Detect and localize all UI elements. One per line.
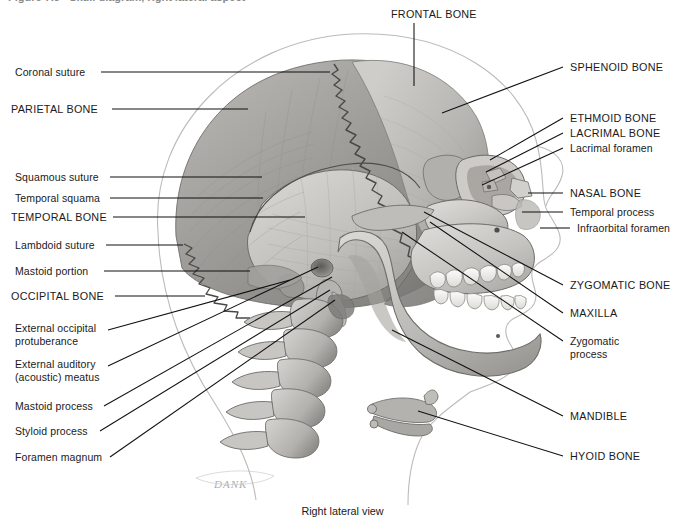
label-parietal-bone: PARIETAL BONE: [11, 103, 98, 116]
label-foramen-magnum: Foramen magnum: [15, 451, 102, 464]
mental-foramen-shape: [496, 334, 500, 338]
label-infraorbital-foramen: Infraorbital foramen: [577, 222, 670, 235]
label-lacrimal-bone: LACRIMAL BONE: [570, 127, 660, 140]
label-mastoid-portion: Mastoid portion: [15, 265, 88, 278]
label-styloid-process: Styloid process: [15, 425, 88, 438]
hyoid-bone-shape: [368, 390, 439, 436]
label-temporal-squama: Temporal squama: [15, 192, 100, 205]
label-frontal-bone: FRONTAL BONE: [391, 8, 477, 21]
lacrimal-foramen-shape: [487, 185, 491, 189]
label-zygomatic-bone: ZYGOMATIC BONE: [570, 279, 670, 292]
leader-line-hyoid-bone: [418, 411, 563, 456]
label-lacrimal-foramen: Lacrimal foramen: [570, 142, 653, 155]
figure-caption: Right lateral view: [0, 505, 685, 517]
label-sphenoid-bone: SPHENOID BONE: [570, 61, 663, 74]
infraorbital-foramen-shape: [494, 227, 499, 232]
label-zygomatic-process: Zygomatic process: [570, 335, 619, 361]
cervical-vertebrae: [220, 295, 354, 458]
label-maxilla: MAXILLA: [570, 307, 617, 320]
label-squamous-suture: Squamous suture: [15, 171, 99, 184]
label-coronal-suture: Coronal suture: [15, 66, 85, 79]
skull-illustration: DANK: [0, 0, 685, 523]
external-auditory-meatus-shape: [311, 259, 333, 277]
label-external-auditory-acoustic-meatus: External auditory (acoustic) meatus: [15, 358, 100, 384]
nasal-aperture-shape: [516, 200, 541, 230]
label-temporal-bone: TEMPORAL BONE: [11, 211, 107, 224]
label-nasal-bone: NASAL BONE: [570, 187, 641, 200]
leader-line-sphenoid-bone: [442, 67, 563, 113]
label-hyoid-bone: HYOID BONE: [570, 450, 640, 463]
label-ethmoid-bone: ETHMOID BONE: [570, 112, 656, 125]
label-mandible: MANDIBLE: [570, 410, 627, 423]
label-occipital-bone: OCCIPITAL BONE: [11, 290, 104, 303]
label-lambdoid-suture: Lambdoid suture: [15, 239, 95, 252]
label-external-occipital-protuberance: External occipital protuberance: [15, 322, 96, 348]
anatomy-figure: Figure 7.3 Skull diagram, right lateral …: [0, 0, 685, 523]
label-temporal-process: Temporal process: [570, 206, 654, 219]
artist-signature: DANK: [196, 471, 274, 490]
label-mastoid-process: Mastoid process: [15, 400, 93, 413]
